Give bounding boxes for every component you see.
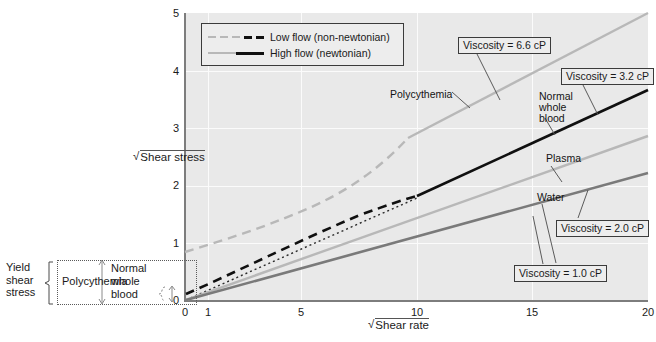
leader-viscosity-20 xyxy=(578,190,588,218)
legend: Low flow (non-newtonian) High flow (newt… xyxy=(201,23,404,66)
leader-water-label xyxy=(542,204,556,263)
legend-label-low-flow: Low flow (non-newtonian) xyxy=(270,32,390,43)
legend-key-dashed xyxy=(208,32,264,42)
callout-viscosity-1-0: Viscosity = 1.0 cP xyxy=(514,265,607,282)
yield-label-line-1: Yield xyxy=(6,261,35,274)
callout-viscosity-2-0: Viscosity = 2.0 cP xyxy=(556,220,649,237)
yield-item-normal-2: whole xyxy=(111,275,140,288)
yield-bracket xyxy=(45,262,53,304)
leader-viscosity-10 xyxy=(533,216,543,264)
yield-item-normal-1: Normal xyxy=(111,262,146,275)
yield-label-line-2: shear xyxy=(6,274,35,287)
leader-polycythemia-label xyxy=(452,92,470,108)
curve-label-polycythemia: Polycythemia xyxy=(390,88,452,100)
callout-viscosity-6-6: Viscosity = 6.6 cP xyxy=(458,37,551,54)
leader-viscosity-32 xyxy=(583,85,598,115)
series-polycythemia-low-flow xyxy=(185,138,408,252)
yield-item-normal-3: blood xyxy=(111,288,138,301)
legend-row-low-flow: Low flow (non-newtonian) xyxy=(208,29,397,45)
legend-label-high-flow: High flow (newtonian) xyxy=(270,48,371,59)
series-normal-blood-extrapolation xyxy=(186,198,417,300)
yield-stress-label: Yield shear stress xyxy=(6,261,35,299)
curve-label-water: Water xyxy=(537,191,565,203)
yield-label-line-3: stress xyxy=(6,286,35,299)
curve-label-normal-line-3: blood xyxy=(539,112,565,124)
leader-viscosity-66 xyxy=(477,54,500,100)
chart-figure: 0 1 2 3 4 5 0 1 5 10 15 20 √Shear stress… xyxy=(0,0,656,342)
curve-label-plasma: Plasma xyxy=(546,152,581,164)
legend-row-high-flow: High flow (newtonian) xyxy=(208,45,397,61)
legend-key-solid xyxy=(208,48,264,58)
callout-viscosity-3-2: Viscosity = 3.2 cP xyxy=(561,68,654,85)
series-normal-blood-high-flow xyxy=(417,90,648,196)
